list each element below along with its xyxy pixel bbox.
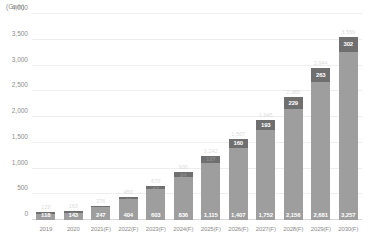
bar-total-label: 1,945 [259,113,273,119]
bar-segment-upper-value: 263 [316,72,326,78]
bar-segment-lower[interactable]: 143 [64,213,83,220]
bar-total-label: 670 [151,179,160,185]
x-axis-tick-label: 2022(F) [115,222,143,236]
y-axis-tick-label: 0 [24,210,28,217]
stacked-bar[interactable]: 27629247 [91,206,110,220]
x-axis-tick-label: 2020 [60,222,88,236]
bar-segment-lower[interactable]: 1,115 [201,163,220,220]
bar-segment-upper[interactable]: 160 [229,139,248,147]
y-axis-tick-label: 2,000 [12,107,28,114]
stacked-bar[interactable]: 2,3852292,156 [284,97,303,220]
bar-column[interactable]: 2,9442632,681 [307,14,335,220]
bar-segment-lower[interactable]: 3,257 [339,52,358,220]
bar-total-label: 163 [69,204,78,210]
y-axis-tick-label: 1,000 [12,158,28,165]
bar-total-label: 129 [41,205,50,211]
bar-segment-lower[interactable]: 247 [91,207,110,220]
stacked-bar[interactable]: 45046404 [119,197,138,220]
bar-segment-upper[interactable]: 193 [256,120,275,130]
bar-segment-lower-value: 118 [36,212,55,218]
bar-column[interactable]: 27629247 [87,14,115,220]
stacked-bar[interactable]: 12911118 [36,212,55,220]
bar-segment-lower[interactable]: 1,752 [256,130,275,220]
bar-segment-upper-value: 229 [288,100,298,106]
bar-column[interactable]: 93094836 [170,14,198,220]
stacked-bar[interactable]: 2,9442632,681 [311,68,330,220]
chart-root: (Gwh) 05001,0001,5002,0002,5003,0003,500… [0,0,368,243]
bar-column[interactable]: 1,9451931,752 [252,14,280,220]
bar-column[interactable]: 16320143 [60,14,88,220]
bar-total-label: 930 [179,165,188,171]
y-axis-tick-label: 4,000 [12,4,28,11]
bar-column[interactable]: 67067603 [142,14,170,220]
stacked-bar[interactable]: 1,2421271,115 [201,156,220,220]
bar-series: 1291111816320143276292474504640467067603… [32,14,362,220]
bar-total-label: 3,559 [341,30,355,36]
bar-total-label: 1,242 [204,149,218,155]
bar-column[interactable]: 1,5671601,407 [225,14,253,220]
stacked-bar[interactable]: 3,5593023,257 [339,37,358,220]
bar-segment-upper-value: 193 [261,122,271,128]
bar-segment-lower-value: 247 [91,212,110,218]
x-axis-tick-label: 2021(F) [87,222,115,236]
bar-segment-upper[interactable]: 263 [311,68,330,82]
bar-segment-lower-value: 603 [146,212,165,218]
bar-column[interactable]: 3,5593023,257 [335,14,363,220]
stacked-bar[interactable]: 67067603 [146,186,165,220]
x-axis-tick-label: 2019 [32,222,60,236]
bar-total-label: 2,944 [314,61,328,67]
bar-segment-lower-value: 404 [119,212,138,218]
x-axis-tick-label: 2027(F) [252,222,280,236]
y-axis-tick-label: 1,500 [12,132,28,139]
bar-segment-lower-value: 1,115 [201,212,220,218]
bar-total-label: 2,385 [286,90,300,96]
x-axis-tick-label: 2028(F) [280,222,308,236]
y-axis-tick-label: 3,000 [12,55,28,62]
bar-segment-lower[interactable]: 404 [119,199,138,220]
bar-segment-lower-value: 836 [174,212,193,218]
stacked-bar[interactable]: 93094836 [174,172,193,220]
x-axis-tick-label: 2023(F) [142,222,170,236]
plot-area: 05001,0001,5002,0002,5003,0003,5004,000 … [32,14,362,220]
bar-total-label: 1,567 [231,132,245,138]
bar-segment-upper[interactable]: 229 [284,97,303,109]
bar-segment-lower-value: 3,257 [339,212,358,218]
y-axis-tick-label: 2,500 [12,81,28,88]
x-axis-tick-label: 2024(F) [170,222,198,236]
bar-segment-lower[interactable]: 2,681 [311,82,330,220]
bar-segment-lower-value: 143 [64,212,83,218]
x-axis: 201920202021(F)2022(F)2023(F)2024(F)2025… [32,222,362,236]
y-axis-tick-label: 500 [17,184,28,191]
bar-segment-lower[interactable]: 1,407 [229,148,248,220]
bar-segment-lower-value: 2,681 [311,212,330,218]
bar-segment-lower[interactable]: 603 [146,189,165,220]
stacked-bar[interactable]: 1,5671601,407 [229,139,248,220]
bar-segment-lower-value: 1,407 [229,212,248,218]
bar-column[interactable]: 45046404 [115,14,143,220]
y-axis-tick-label: 3,500 [12,29,28,36]
x-axis-tick-label: 2025(F) [197,222,225,236]
bar-segment-upper[interactable]: 302 [339,37,358,53]
bar-segment-lower[interactable]: 2,156 [284,109,303,220]
bar-column[interactable]: 1,2421271,115 [197,14,225,220]
bar-segment-upper-value: 160 [233,140,243,146]
bar-segment-lower[interactable]: 118 [36,214,55,220]
x-axis-tick-label: 2026(F) [225,222,253,236]
bar-segment-lower[interactable]: 836 [174,177,193,220]
stacked-bar[interactable]: 1,9451931,752 [256,120,275,220]
bar-segment-upper-value: 302 [343,41,353,47]
x-axis-tick-label: 2029(F) [307,222,335,236]
bar-total-label: 276 [96,199,105,205]
bar-column[interactable]: 2,3852292,156 [280,14,308,220]
x-axis-tick-label: 2030(F) [335,222,363,236]
bar-total-label: 450 [124,190,133,196]
bar-column[interactable]: 12911118 [32,14,60,220]
bar-segment-lower-value: 2,156 [284,212,303,218]
bar-segment-lower-value: 1,752 [256,212,275,218]
stacked-bar[interactable]: 16320143 [64,211,83,220]
